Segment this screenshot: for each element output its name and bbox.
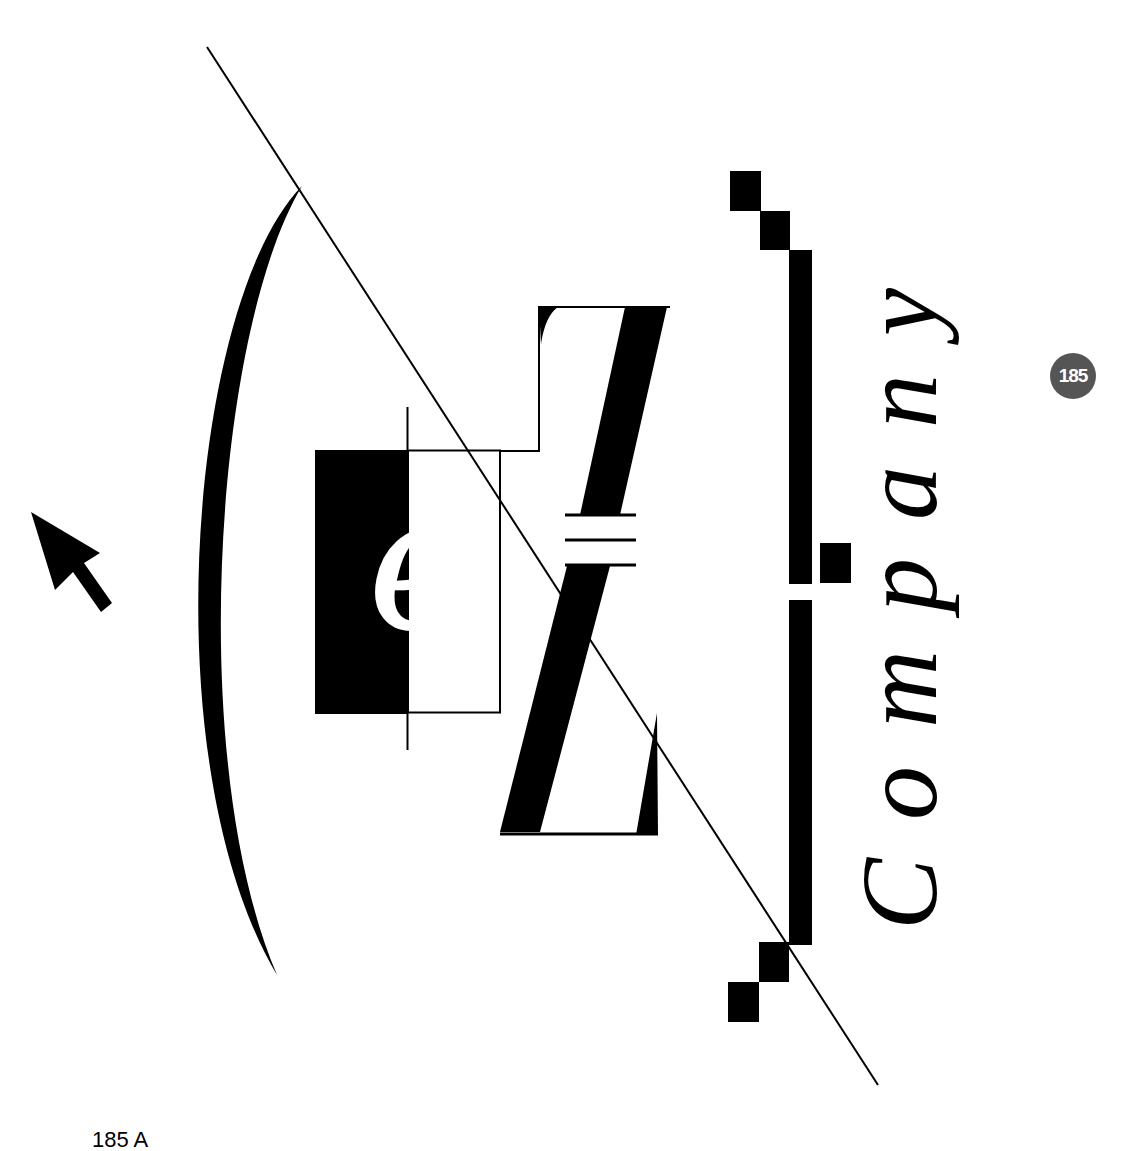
- step-square-top-2: [760, 211, 790, 250]
- z-stroke-lower: [500, 566, 610, 832]
- z-top-serif: [539, 306, 560, 345]
- step-square-bottom-2: [728, 982, 759, 1022]
- step-square-bottom-1: [759, 942, 789, 982]
- bar-lower: [789, 600, 812, 945]
- z-bottom-serif: [636, 713, 658, 835]
- bar-upper: [789, 250, 812, 584]
- figure-caption: 185 A: [92, 1127, 148, 1151]
- monogram-letter: e: [367, 468, 479, 658]
- step-square-top-1: [730, 171, 761, 211]
- monogram-panel: e: [315, 450, 501, 714]
- crescent-arc: [198, 186, 302, 975]
- wordmark: Company: [846, 250, 954, 930]
- page-number-badge: 185: [1050, 353, 1096, 399]
- z-stroke-upper: [580, 307, 667, 515]
- diagonal-line: [207, 47, 878, 1085]
- arrow-cursor-icon: [31, 512, 112, 612]
